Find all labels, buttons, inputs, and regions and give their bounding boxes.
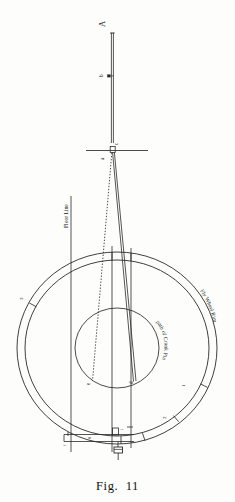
crosshead-block bbox=[110, 147, 115, 153]
rod-collar-b bbox=[107, 74, 113, 77]
rim-tick-marks bbox=[29, 252, 207, 444]
figure-caption-wrap: Fig. 11 bbox=[0, 476, 235, 494]
label-bottom-mid-g: g bbox=[86, 436, 91, 439]
rim-tick-1 bbox=[29, 303, 36, 307]
label-floor-line: Floor Line bbox=[63, 204, 69, 228]
crank-pin-path-circle bbox=[75, 308, 159, 388]
engineering-diagram: 1 2 3 bbox=[0, 0, 235, 502]
label-fly-wheel-rim: Fly Wheel Rim bbox=[199, 288, 218, 323]
label-rod-mark-b: b bbox=[98, 74, 104, 77]
rim-inner-circle bbox=[25, 260, 209, 436]
rim-tick-4 bbox=[143, 433, 146, 440]
rim-tick-3 bbox=[174, 416, 179, 422]
label-inner-right-d: d bbox=[128, 381, 134, 384]
label-crosshead-c: c bbox=[113, 142, 119, 145]
rim-tick-label-2: 2 bbox=[162, 416, 167, 419]
rim-tick-2 bbox=[200, 384, 207, 388]
rod-to-crankpin-d-2 bbox=[114, 153, 136, 382]
label-crank-pin-path: path of Crank Pin bbox=[155, 319, 169, 361]
label-bottom-right-i: i bbox=[119, 428, 124, 430]
rim-tick-label-1: 1 bbox=[181, 384, 186, 387]
rod-lower-lines bbox=[93, 153, 137, 382]
crosshead-guide-group bbox=[86, 147, 148, 153]
rim-tick-label-3: 3 bbox=[19, 297, 24, 300]
label-crosshead-a: a bbox=[99, 157, 105, 160]
figure-container: 1 2 3 bbox=[0, 0, 235, 502]
connecting-rod-group bbox=[110, 33, 114, 143]
label-inner-left-e: e bbox=[85, 382, 91, 385]
pendulum-bob bbox=[114, 447, 123, 453]
fly-wheel-rim-group bbox=[17, 252, 217, 444]
rim-outer-circle bbox=[17, 252, 217, 444]
figure-caption: Fig. 11 bbox=[96, 479, 139, 493]
rod-to-crankpin-e-dotted bbox=[93, 153, 112, 381]
base-block-centre bbox=[113, 428, 119, 435]
rod-to-crankpin-d bbox=[113, 153, 134, 382]
label-rod-top-A: A bbox=[97, 20, 107, 27]
label-bottom-left-f: f bbox=[62, 444, 67, 446]
